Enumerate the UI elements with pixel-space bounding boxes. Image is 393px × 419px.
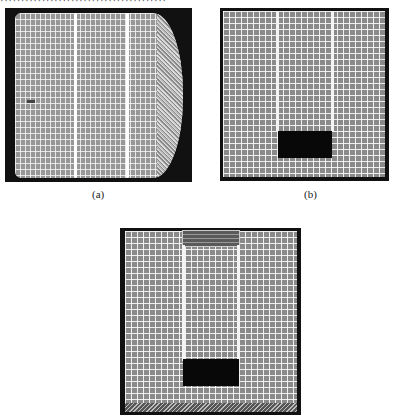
cylinder-surface [15, 13, 183, 178]
black-block [183, 359, 239, 386]
figure-c-section-mesh [120, 228, 301, 415]
caption-b: (b) [304, 188, 317, 200]
cylinder-end-face [157, 13, 183, 178]
cropped-text-line: ········································ [0, 0, 393, 3]
black-block [278, 131, 332, 158]
vertical-line-left [276, 12, 279, 132]
ring-band-1 [74, 13, 77, 178]
ring-band-2 [126, 13, 129, 178]
caption-a: (a) [92, 188, 104, 200]
figure-a-cylinder-mesh [5, 8, 192, 182]
vertical-line-left [182, 245, 185, 361]
top-layered-block [182, 230, 240, 247]
vertical-line-right [237, 245, 240, 361]
small-marker [27, 100, 35, 103]
vertical-line-right [331, 12, 334, 132]
figure-b-section-mesh [220, 8, 389, 181]
hatched-bottom-band [125, 403, 297, 412]
